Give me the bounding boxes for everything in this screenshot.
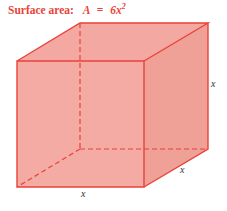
cube-diagram: x x x — [0, 0, 227, 211]
height-label: x — [210, 78, 216, 89]
width-label: x — [80, 188, 86, 199]
depth-label: x — [179, 164, 185, 175]
